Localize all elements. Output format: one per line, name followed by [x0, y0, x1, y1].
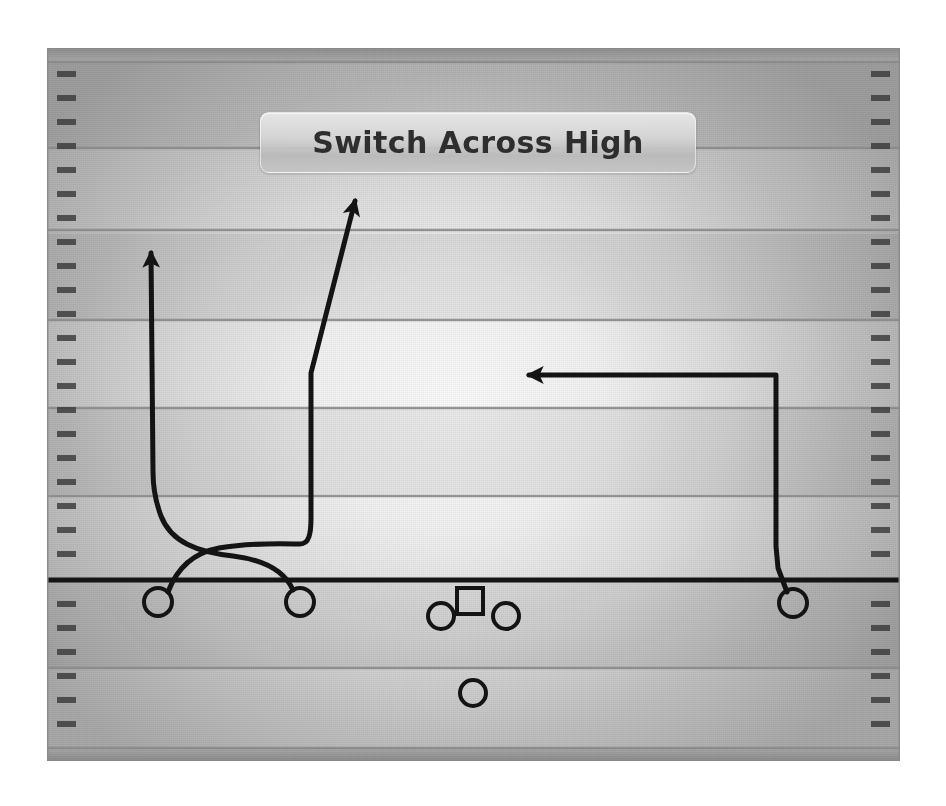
play-diagram-screenshot: Switch Across High [0, 0, 946, 806]
play-title-banner: Switch Across High [260, 112, 696, 173]
play-title: Switch Across High [312, 128, 644, 158]
field-top-band [47, 48, 900, 61]
field-bottom-band [47, 748, 900, 761]
